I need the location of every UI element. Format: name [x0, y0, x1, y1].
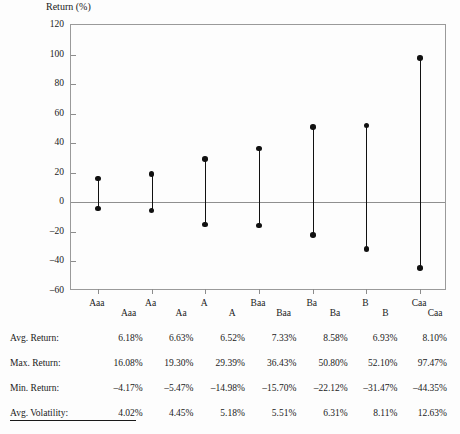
table-body: Avg. Return:6.18%6.63%6.52%7.33%8.58%6.9…	[0, 325, 460, 425]
y-axis-tick	[71, 84, 76, 85]
y-axis-tick-label: 60	[2, 108, 64, 118]
plot-area	[71, 25, 445, 289]
table-cell: 5.51%	[258, 400, 309, 425]
y-axis-tick-label: 120	[2, 19, 64, 29]
table-header: AaaAaABaaBaBCaa	[0, 300, 460, 325]
y-axis-tick	[71, 173, 76, 174]
table-cell: 4.02%	[101, 400, 155, 425]
table-row: Min. Return:–4.17%–5.47%–14.98%–15.70%–2…	[0, 375, 460, 400]
table-cell: 4.45%	[156, 400, 207, 425]
table-cell: 7.33%	[258, 325, 309, 350]
range-bar	[366, 125, 367, 248]
table-corner-cell	[0, 300, 101, 325]
table-row-label: Min. Return:	[0, 375, 101, 400]
table-column-header: Caa	[410, 300, 460, 325]
x-axis-tick	[313, 289, 314, 294]
y-axis-tick	[71, 143, 76, 144]
table-cell: –31.47%	[361, 375, 411, 400]
y-axis-tick-label: –20	[2, 226, 64, 236]
chart-page: Return (%) 120100806040200–20–40–60 AaaA…	[0, 0, 460, 434]
table-column-header: Aaa	[101, 300, 155, 325]
table-cell: 6.52%	[207, 325, 258, 350]
y-axis-tick-label: 0	[2, 196, 64, 206]
table-cell: 6.93%	[361, 325, 411, 350]
min-return-marker	[202, 222, 208, 228]
max-return-marker	[202, 156, 208, 162]
range-bar	[98, 179, 99, 209]
table-row-label: Avg. Volatility:	[0, 400, 101, 425]
table-cell: –5.47%	[156, 375, 207, 400]
table-cell: 6.31%	[309, 400, 360, 425]
table-cell: 29.39%	[207, 350, 258, 375]
y-axis-tick-label: 40	[2, 137, 64, 147]
table-column-header: A	[207, 300, 258, 325]
table-column-header: Baa	[258, 300, 309, 325]
table-row: Avg. Return:6.18%6.63%6.52%7.33%8.58%6.9…	[0, 325, 460, 350]
table-cell: 8.10%	[410, 325, 460, 350]
table-cell: 50.80%	[309, 350, 360, 375]
table-cell: –22.12%	[309, 375, 360, 400]
table-cell: 5.18%	[207, 400, 258, 425]
min-return-marker	[95, 206, 101, 212]
table-column-header: Aa	[156, 300, 207, 325]
range-bar	[152, 174, 153, 211]
x-axis-tick	[420, 289, 421, 294]
table-column-header: Ba	[309, 300, 360, 325]
max-return-marker	[95, 176, 101, 182]
range-bar	[313, 127, 314, 235]
table-column-header: B	[361, 300, 411, 325]
table-cell: 12.63%	[410, 400, 460, 425]
min-return-marker	[417, 265, 423, 271]
statistics-table: AaaAaABaaBaBCaa Avg. Return:6.18%6.63%6.…	[0, 300, 460, 425]
range-bar	[259, 148, 260, 225]
y-axis-tick-label: 80	[2, 78, 64, 88]
table-cell: –14.98%	[207, 375, 258, 400]
range-bar	[205, 159, 206, 225]
table-cell: 6.63%	[156, 325, 207, 350]
y-axis-tick	[71, 114, 76, 115]
table-cell: 52.10%	[361, 350, 411, 375]
table-cell: 97.47%	[410, 350, 460, 375]
min-return-marker	[256, 223, 262, 229]
zero-reference-line	[71, 202, 445, 203]
y-axis-tick	[71, 55, 76, 56]
x-axis-tick	[366, 289, 367, 294]
max-return-marker	[364, 123, 370, 129]
y-axis-tick-label: –60	[2, 285, 64, 295]
table-row: Max. Return:16.08%19.30%29.39%36.43%50.8…	[0, 350, 460, 375]
table-cell: 6.18%	[101, 325, 155, 350]
table-row: Avg. Volatility:4.02%4.45%5.18%5.51%6.31…	[0, 400, 460, 425]
min-return-marker	[149, 208, 155, 214]
chart-title: Return (%)	[46, 1, 91, 13]
table-row-label: Avg. Return:	[0, 325, 101, 350]
bottom-rule	[10, 420, 136, 421]
table-cell: 8.11%	[361, 400, 411, 425]
table-cell: –4.17%	[101, 375, 155, 400]
y-axis-tick-label: 20	[2, 167, 64, 177]
table-row-label: Max. Return:	[0, 350, 101, 375]
table-cell: 19.30%	[156, 350, 207, 375]
max-return-marker	[417, 55, 423, 61]
table-cell: –44.35%	[410, 375, 460, 400]
x-axis-tick	[152, 289, 153, 294]
y-axis-tick	[71, 261, 76, 262]
plot-frame	[70, 24, 446, 290]
max-return-marker	[310, 124, 316, 130]
x-axis-tick	[98, 289, 99, 294]
table-cell: 36.43%	[258, 350, 309, 375]
table-cell: 8.58%	[309, 325, 360, 350]
max-return-marker	[256, 146, 262, 152]
y-axis-tick	[71, 232, 76, 233]
y-axis-tick-label: –40	[2, 255, 64, 265]
max-return-marker	[149, 171, 155, 177]
table-cell: –15.70%	[258, 375, 309, 400]
x-axis-tick	[205, 289, 206, 294]
table-cell: 16.08%	[101, 350, 155, 375]
min-return-marker	[310, 232, 316, 238]
min-return-marker	[364, 246, 370, 252]
y-axis-tick-label: 100	[2, 49, 64, 59]
range-bar	[420, 58, 421, 268]
x-axis-tick	[259, 289, 260, 294]
table-header-row: AaaAaABaaBaBCaa	[0, 300, 460, 325]
